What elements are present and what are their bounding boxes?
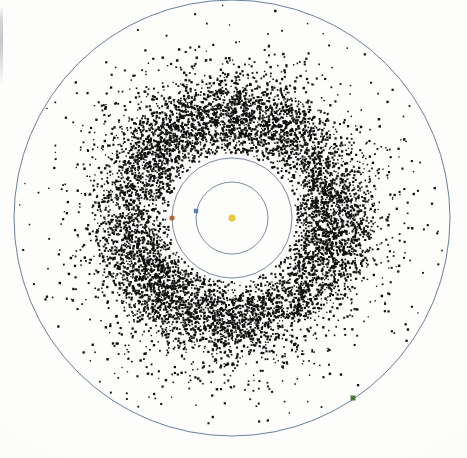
plot-background (0, 0, 467, 458)
jupiter-marker: Jupiter (351, 396, 356, 401)
asteroid-belt-figure: SunEarthMarsJupiter (0, 0, 467, 458)
plot-canvas: SunEarthMarsJupiter (0, 0, 467, 458)
mars-marker: Mars (169, 215, 174, 220)
earth-marker: Earth (194, 209, 198, 213)
sun-marker: Sun (229, 215, 236, 222)
